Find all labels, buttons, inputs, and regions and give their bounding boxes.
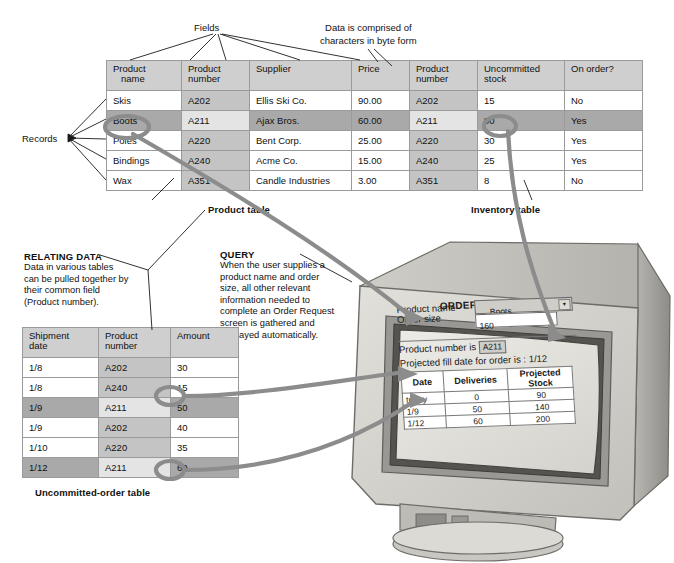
cell-shipment-date: 1/8	[23, 378, 99, 398]
cell-product-number: A240	[182, 151, 250, 171]
cell-uncommitted-stock: 90	[478, 111, 565, 131]
column-header-on-order: On order?	[565, 61, 643, 91]
byte-form-label: Data is comprised of characters in byte …	[320, 22, 417, 47]
column-header-product-name: Product name	[107, 61, 182, 91]
chevron-down-icon[interactable]: ▾	[558, 299, 571, 310]
monitor-side-panel	[634, 244, 670, 506]
monitor-base-top	[393, 522, 563, 554]
cell-product-number: A240	[410, 151, 478, 171]
column-header-uncommitted-stock: Uncommitted stock	[478, 61, 565, 91]
table-header-row: Shipment date Product number Amount	[23, 328, 239, 358]
table-row: A3518No	[410, 171, 643, 191]
leader-line	[218, 34, 226, 60]
table-row: A24025Yes	[410, 151, 643, 171]
cell-product-name: Wax	[107, 171, 182, 191]
leader-line	[68, 138, 106, 139]
column-header-price: Price	[352, 61, 413, 91]
cell-price: 25.00	[352, 131, 413, 151]
table-row: 1/12A21160	[23, 458, 239, 478]
cell-supplier: Acme Co.	[250, 151, 352, 171]
product-number-label: Product number is	[399, 341, 477, 355]
hdr-line: number	[188, 74, 243, 84]
leader-line	[148, 270, 152, 330]
cell-on-order: Yes	[565, 111, 643, 131]
cell-product-number: A351	[410, 171, 478, 191]
cell-uncommitted-stock: 15	[478, 91, 565, 111]
table-row: 1/8A20230	[23, 358, 239, 378]
cell-price: 90.00	[352, 91, 413, 111]
table-row: 1/10A22035	[23, 438, 239, 458]
order-size-label: Order size	[397, 312, 442, 325]
cell-shipment-date: 1/12	[23, 458, 99, 478]
table-row: 1/8A24015	[23, 378, 239, 398]
projection-table-body: today0901/9501401/1260200	[402, 387, 575, 429]
hdr-line: name	[113, 74, 175, 84]
relating-data-body: Data in various tables can be pulled tog…	[24, 262, 130, 308]
byte-form-line2: characters in byte form	[320, 35, 417, 48]
cell-product-number: A240	[99, 378, 171, 398]
relating-data-title: RELATING DATA	[24, 251, 130, 262]
hdr-line: number	[416, 74, 471, 84]
column-header-deliveries: Deliveries	[442, 369, 508, 392]
records-leader-lines	[68, 99, 106, 180]
table-header-row: Product number Uncommitted stock On orde…	[410, 61, 643, 91]
cell-product-number: A211	[99, 458, 171, 478]
cell-price: 15.00	[352, 151, 413, 171]
uncommitted-order-table: Shipment date Product number Amount 1/8A…	[22, 327, 239, 478]
hdr-line: On order?	[571, 64, 636, 74]
cell-amount: 35	[171, 438, 239, 458]
cell-deliveries: 60	[445, 414, 511, 428]
cell-product-number: A211	[99, 398, 171, 418]
cell-shipment-date: 1/9	[23, 418, 99, 438]
hdr-line: stock	[484, 74, 558, 84]
relating-data-note: RELATING DATA Data in various tables can…	[24, 251, 130, 308]
cell-date: 1/12	[404, 416, 446, 429]
table-row: PolesA220Bent Corp.25.00	[107, 131, 413, 151]
column-header-amount: Amount	[171, 328, 239, 358]
table-row: A20215No	[410, 91, 643, 111]
order-table-grid: Shipment date Product number Amount 1/8A…	[22, 327, 239, 478]
leader-line	[68, 119, 106, 138]
product-table-body: SkisA202Ellis Ski Co.90.00BootsA211Ajax …	[107, 91, 413, 191]
cell-product-name: Skis	[107, 91, 182, 111]
cell-price: 60.00	[352, 111, 413, 131]
cell-product-name: Boots	[107, 111, 182, 131]
cell-product-number: A202	[99, 358, 171, 378]
column-header-date: Date	[401, 371, 444, 393]
cell-amount: 60	[171, 458, 239, 478]
leader-line	[130, 34, 213, 60]
column-header-product-number: Product number	[99, 328, 171, 358]
cell-product-number: A202	[99, 418, 171, 438]
cell-on-order: No	[565, 171, 643, 191]
cell-product-number: A202	[182, 91, 250, 111]
order-size-value: 160	[476, 320, 494, 333]
hdr-line: number	[105, 341, 164, 351]
arrow-head	[68, 134, 76, 142]
cell-supplier: Ajax Bros.	[250, 111, 352, 131]
table-row: A22030Yes	[410, 131, 643, 151]
leader-line	[68, 138, 106, 180]
product-table-grid: Product name Product number Supplier Pri…	[106, 60, 413, 191]
projection-table: Date Deliveries Projected Stock today090…	[400, 366, 576, 430]
column-header-product-number: Product number	[410, 61, 478, 91]
order-table-body: 1/8A202301/8A240151/9A211501/9A202401/10…	[23, 358, 239, 478]
leader-line	[220, 34, 300, 60]
cell-on-order: Yes	[565, 151, 643, 171]
cell-amount: 15	[171, 378, 239, 398]
product-number-value: A211	[478, 340, 506, 354]
table-row: SkisA202Ellis Ski Co.90.00	[107, 91, 413, 111]
column-header-shipment-date: Shipment date	[23, 328, 99, 358]
cell-product-number: A220	[410, 131, 478, 151]
cell-projected-stock: 200	[510, 411, 575, 425]
order-size-input[interactable]: 160	[475, 311, 558, 328]
cell-shipment-date: 1/10	[23, 438, 99, 458]
cell-on-order: No	[565, 91, 643, 111]
cell-product-number: A202	[410, 91, 478, 111]
cell-supplier: Bent Corp.	[250, 131, 352, 151]
cell-amount: 40	[171, 418, 239, 438]
byte-form-line1: Data is comprised of	[320, 22, 417, 35]
cell-product-name: Bindings	[107, 151, 182, 171]
table-row: 1/9A21150	[23, 398, 239, 418]
table-header-row: Product name Product number Supplier Pri…	[107, 61, 413, 91]
hdr-line: Amount	[177, 331, 232, 341]
